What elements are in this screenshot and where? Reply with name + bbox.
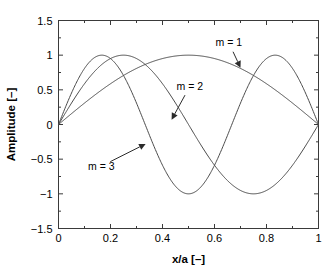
annotation-arrow-line-m1: [233, 52, 238, 62]
tick-labels-layer: 00.20.40.60.81−1.5−1−0.500.511.5: [31, 15, 322, 245]
y-axis-title: Amplitude [–]: [5, 88, 17, 162]
x-tick-label-1: 0.2: [103, 232, 118, 244]
figure-canvas: 00.20.40.60.81−1.5−1−0.500.511.5 m = 1m …: [0, 0, 336, 279]
x-tick-label-4: 0.8: [259, 232, 274, 244]
annotations-layer: m = 1m = 2m = 3: [88, 36, 242, 171]
y-tick-label-3: 0: [46, 119, 52, 131]
x-tick-label-0: 0: [55, 232, 61, 244]
x-tick-label-2: 0.4: [155, 232, 170, 244]
x-tick-label-3: 0.6: [207, 232, 222, 244]
y-tick-label-4: 0.5: [37, 84, 52, 96]
curves-layer: [59, 55, 319, 194]
y-tick-label-1: −1: [40, 188, 53, 200]
annotation-arrow-line-m3: [110, 147, 139, 162]
y-tick-label-2: −0.5: [31, 153, 53, 165]
y-tick-label-0: −1.5: [31, 223, 53, 235]
x-axis-title: x/a [–]: [172, 253, 205, 265]
x-tick-label-5: 1: [315, 232, 321, 244]
curve-m-2: [59, 55, 319, 194]
y-tick-label-5: 1: [46, 49, 52, 61]
chart-plot: 00.20.40.60.81−1.5−1−0.500.511.5 m = 1m …: [0, 0, 336, 279]
annotation-label-m1: m = 1: [216, 36, 243, 48]
annotation-label-m2: m = 2: [177, 80, 204, 92]
y-tick-label-6: 1.5: [37, 15, 52, 27]
